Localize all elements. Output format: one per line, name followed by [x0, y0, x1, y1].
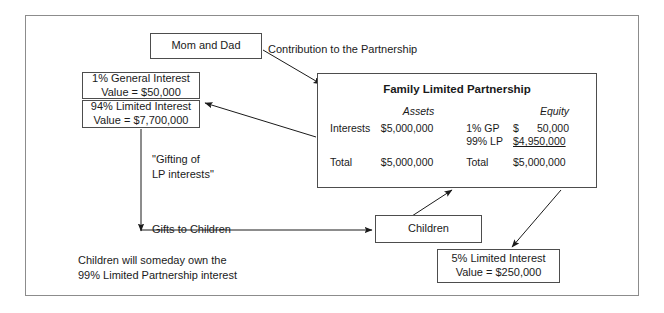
label-gifts-to-children: Gifts to Children [152, 222, 231, 237]
spacer-cell-a [318, 148, 381, 156]
limited94-percent-label: 94% Limited Interest [91, 100, 191, 114]
equity-gp-label: 1% GP [456, 122, 513, 135]
assets-total-label: Total [318, 156, 381, 169]
spacer-cell-d [513, 148, 596, 156]
box-limited-interest-5[interactable]: 5% Limited Interest Value = $250,000 [437, 249, 560, 283]
arrow-flp-to-limited5 [512, 190, 561, 247]
arrow-children-to-flp [412, 190, 452, 216]
box-children[interactable]: Children [375, 215, 482, 243]
arrow-flp-to-limited94 [205, 103, 316, 137]
label-contribution: Contribution to the Partnership [268, 42, 417, 57]
spacer-cell-b [381, 148, 456, 156]
spacer-cell-c [456, 148, 513, 156]
assets-blank-label [318, 135, 381, 148]
equity-lp-value: $4,950,000 [513, 135, 596, 148]
equity-gp-value-cell: $50,000 [513, 122, 596, 135]
assets-interests-label: Interests [318, 122, 381, 135]
table-row: Interests $5,000,000 1% GP $50,000 [318, 122, 596, 135]
table-spacer-row [318, 148, 596, 156]
equity-header: Equity [513, 105, 596, 122]
box-mom-and-dad[interactable]: Mom and Dad [150, 33, 262, 59]
box-limited-interest-94[interactable]: 94% Limited Interest Value = $7,700,000 [82, 100, 200, 128]
assets-interests-value: $5,000,000 [381, 122, 456, 135]
table-row: 99% LP $4,950,000 [318, 135, 596, 148]
general-interest-value-label: Value = $50,000 [101, 86, 181, 100]
box-mom-and-dad-label: Mom and Dad [171, 39, 240, 53]
box-children-label: Children [408, 222, 449, 236]
assets-header-spacer [318, 105, 381, 122]
box-general-interest[interactable]: 1% General Interest Value = $50,000 [82, 72, 200, 99]
assets-total-value: $5,000,000 [381, 156, 456, 169]
equity-gp-value: 50,000 [537, 122, 569, 134]
limited5-percent-label: 5% Limited Interest [451, 252, 545, 266]
flp-balance-table: Assets Equity Interests $5,000,000 1% GP… [318, 105, 596, 169]
table-row-total: Total $5,000,000 Total $5,000,000 [318, 156, 596, 169]
limited94-value-label: Value = $7,700,000 [94, 114, 189, 128]
equity-header-spacer [456, 105, 513, 122]
equity-total-value: $5,000,000 [513, 156, 596, 169]
equity-lp-label: 99% LP [456, 135, 513, 148]
flp-table-header-row: Assets Equity [318, 105, 596, 122]
footnote-children-ownership: Children will someday own the 99% Limite… [78, 253, 237, 283]
label-gifting-of-lp-interests: "Gifting of LP interests" [152, 152, 214, 182]
assets-blank-value [381, 135, 456, 148]
flp-title: Family Limited Partnership [318, 83, 596, 95]
diagram-canvas: Mom and Dad 1% General Interest Value = … [0, 0, 664, 313]
general-interest-percent-label: 1% General Interest [92, 72, 190, 86]
equity-gp-currency: $ [513, 122, 519, 134]
limited5-value-label: Value = $250,000 [456, 266, 542, 280]
box-family-limited-partnership[interactable]: Family Limited Partnership Assets Equity… [317, 73, 597, 188]
assets-header: Assets [381, 105, 456, 122]
equity-total-label: Total [456, 156, 513, 169]
